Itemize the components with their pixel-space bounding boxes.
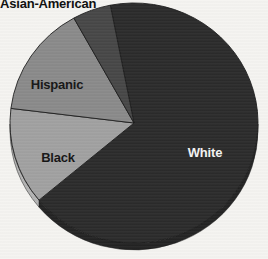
- pie-label-asian-american: Asian-American: [0, 0, 96, 11]
- pie-label-black: Black: [41, 150, 75, 165]
- pie-chart: [0, 0, 268, 259]
- pie-label-hispanic: Hispanic: [31, 77, 84, 92]
- pie-chart-figure: Asian-American Hispanic Black White: [0, 0, 268, 259]
- pie-label-white: White: [188, 145, 222, 160]
